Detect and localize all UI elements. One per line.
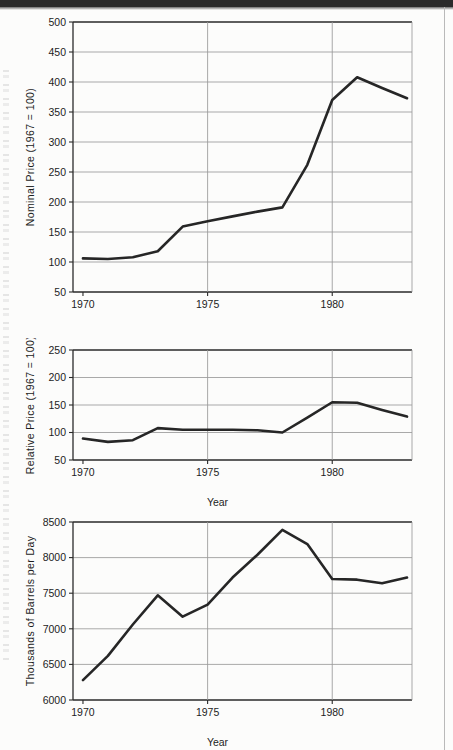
x-axis-ticks: 197019751980 xyxy=(71,700,344,718)
y-axis-title: Thousands of Barrels per Day xyxy=(24,535,36,686)
y-tick-label: 150 xyxy=(48,226,66,238)
x-axis-title: Year xyxy=(207,496,229,506)
x-tick-label: 1980 xyxy=(321,298,345,310)
data-series-line xyxy=(83,530,407,680)
y-tick-label: 8000 xyxy=(43,551,67,563)
y-tick-label: 7000 xyxy=(43,623,67,635)
y-tick-label: 6500 xyxy=(43,658,67,670)
y-axis-ticks: 600065007000750080008500 xyxy=(43,516,73,706)
y-tick-label: 500 xyxy=(48,16,66,28)
y-tick-label: 100 xyxy=(48,256,66,268)
y-tick-label: 8500 xyxy=(43,516,67,528)
x-tick-label: 1980 xyxy=(321,706,345,718)
x-tick-label: 1970 xyxy=(71,706,95,718)
x-tick-label: 1975 xyxy=(196,298,220,310)
y-axis-ticks: 50100150200250 xyxy=(48,344,73,466)
y-tick-label: 400 xyxy=(48,76,66,88)
y-tick-label: 450 xyxy=(48,46,66,58)
y-axis-title: Relative Price (1967 = 100) xyxy=(24,338,36,474)
y-tick-label: 50 xyxy=(54,286,66,298)
x-axis-title: Year xyxy=(207,328,229,330)
x-axis-title: Year xyxy=(207,736,229,746)
y-tick-label: 7500 xyxy=(43,587,67,599)
y-tick-label: 50 xyxy=(54,454,66,466)
x-tick-label: 1970 xyxy=(71,466,95,478)
x-axis-ticks: 197019751980 xyxy=(71,292,344,310)
page-top-scan-bar xyxy=(0,0,453,7)
y-tick-label: 250 xyxy=(48,166,66,178)
axis-spines xyxy=(73,522,412,700)
chart-svg-b: 50100150200250197019751980Relative Price… xyxy=(0,338,453,506)
y-axis-ticks: 50100150200250300350400450500 xyxy=(48,16,73,298)
x-tick-label: 1980 xyxy=(321,466,345,478)
chart-panel-b: 50100150200250197019751980Relative Price… xyxy=(0,338,453,506)
gridlines xyxy=(73,522,412,700)
y-tick-label: 250 xyxy=(48,344,66,356)
data-series-line xyxy=(83,402,407,442)
x-axis-ticks: 197019751980 xyxy=(71,460,344,478)
y-tick-label: 200 xyxy=(48,196,66,208)
y-axis-title: Nominal Price (1967 = 100) xyxy=(24,88,36,227)
x-tick-label: 1975 xyxy=(196,706,220,718)
chart-svg-a: 5010015020025030035040045050019701975198… xyxy=(0,8,453,330)
chart-panel-a: 5010015020025030035040045050019701975198… xyxy=(0,8,453,330)
x-tick-label: 1970 xyxy=(71,298,95,310)
y-tick-label: 300 xyxy=(48,136,66,148)
axis-spines xyxy=(73,22,412,292)
y-tick-label: 100 xyxy=(48,426,66,438)
y-tick-label: 150 xyxy=(48,399,66,411)
y-tick-label: 6000 xyxy=(43,694,67,706)
x-tick-label: 1975 xyxy=(196,466,220,478)
gridlines xyxy=(73,22,412,292)
y-tick-label: 350 xyxy=(48,106,66,118)
chart-panel-c: 600065007000750080008500197019751980Thou… xyxy=(0,508,453,746)
chart-svg-c: 600065007000750080008500197019751980Thou… xyxy=(0,508,453,746)
scanned-page: 5010015020025030035040045050019701975198… xyxy=(0,0,453,750)
y-tick-label: 200 xyxy=(48,371,66,383)
